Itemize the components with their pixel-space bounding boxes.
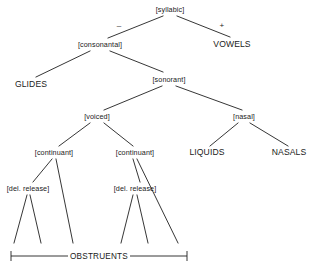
node-glides: GLIDES [15, 79, 47, 89]
tree-edge [30, 195, 41, 243]
node-del-release-1: [del. release] [7, 184, 50, 193]
tree-edge [59, 123, 90, 146]
tree-edge [14, 195, 27, 243]
tree-edge [36, 51, 90, 77]
tree-edge [176, 86, 242, 110]
tree-edge [137, 195, 148, 243]
tree-edge [33, 159, 52, 182]
node-continuant-2: [continuant] [116, 148, 154, 157]
tree-edge [104, 123, 133, 146]
node-liquids: LIQUIDS [189, 147, 224, 157]
branch-value-syllabic-minus: – [117, 21, 122, 30]
tree-edge [210, 123, 238, 146]
node-nasal: [nasal] [233, 112, 255, 121]
tree-edge [56, 159, 73, 243]
tree-edge [137, 159, 178, 243]
node-continuant-1: [continuant] [35, 148, 73, 157]
node-del-release-2: [del. release] [114, 184, 157, 193]
node-sonorant: [sonorant] [153, 75, 186, 84]
tree-edge [121, 195, 133, 243]
edges-group [14, 16, 288, 243]
tree-edges-canvas [0, 0, 316, 268]
node-nasals: NASALS [272, 147, 307, 157]
node-consonantal: [consonantal] [78, 40, 122, 49]
node-vowels: VOWELS [213, 39, 250, 49]
branch-value-syllabic-plus: + [220, 21, 225, 30]
tree-edge [250, 123, 288, 146]
tree-edge [110, 51, 163, 72]
node-voiced: [voiced] [84, 112, 110, 121]
obstruents-bracket-label: OBSTRUENTS [68, 252, 130, 261]
node-syllabic: [syllabic] [156, 5, 185, 14]
feature-tree-diagram: [syllabic][consonantal]VOWELSGLIDES[sono… [0, 0, 316, 268]
tree-edge [104, 86, 162, 110]
